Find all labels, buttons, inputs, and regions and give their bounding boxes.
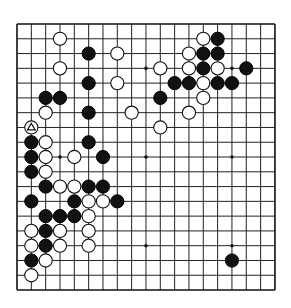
white-stone bbox=[53, 180, 66, 193]
white-stone bbox=[82, 239, 95, 252]
white-stone bbox=[154, 121, 167, 134]
black-stone bbox=[82, 77, 95, 90]
black-stone bbox=[154, 91, 167, 104]
black-stone bbox=[53, 210, 66, 223]
white-stone bbox=[53, 62, 66, 75]
star-point bbox=[58, 155, 62, 159]
white-stone bbox=[197, 77, 210, 90]
white-stone bbox=[68, 150, 81, 163]
white-stone bbox=[211, 62, 224, 75]
black-stone bbox=[82, 136, 95, 149]
black-stone bbox=[211, 47, 224, 60]
black-stone bbox=[68, 210, 81, 223]
black-stone bbox=[82, 180, 95, 193]
white-stone bbox=[39, 254, 52, 267]
white-stone bbox=[53, 239, 66, 252]
black-stone bbox=[240, 62, 253, 75]
white-stone bbox=[68, 180, 81, 193]
star-point bbox=[230, 155, 234, 159]
white-stone bbox=[111, 47, 124, 60]
white-stone bbox=[182, 106, 195, 119]
white-stone bbox=[154, 62, 167, 75]
star-point bbox=[230, 244, 234, 248]
white-stone bbox=[39, 165, 52, 178]
black-stone bbox=[197, 62, 210, 75]
white-stone bbox=[82, 195, 95, 208]
star-point bbox=[144, 244, 148, 248]
white-stone bbox=[39, 136, 52, 149]
black-stone bbox=[53, 91, 66, 104]
black-stone bbox=[211, 77, 224, 90]
star-point bbox=[144, 155, 148, 159]
white-stone bbox=[53, 32, 66, 45]
white-stone bbox=[39, 150, 52, 163]
black-stone bbox=[182, 77, 195, 90]
black-stone bbox=[25, 150, 38, 163]
white-stone bbox=[53, 224, 66, 237]
white-stone bbox=[125, 106, 138, 119]
black-stone bbox=[82, 106, 95, 119]
black-stone bbox=[39, 91, 52, 104]
black-stone bbox=[25, 165, 38, 178]
black-stone bbox=[82, 47, 95, 60]
black-stone bbox=[39, 180, 52, 193]
black-stone bbox=[25, 254, 38, 267]
black-stone bbox=[96, 150, 109, 163]
black-stone bbox=[168, 77, 181, 90]
white-stone bbox=[197, 32, 210, 45]
black-stone bbox=[39, 210, 52, 223]
white-stone bbox=[96, 195, 109, 208]
white-stone bbox=[39, 106, 52, 119]
black-stone bbox=[25, 195, 38, 208]
go-board[interactable] bbox=[0, 0, 291, 308]
white-stone bbox=[182, 62, 195, 75]
black-stone bbox=[197, 47, 210, 60]
white-stone bbox=[111, 77, 124, 90]
white-stone bbox=[25, 269, 38, 282]
black-stone bbox=[68, 195, 81, 208]
black-stone bbox=[225, 77, 238, 90]
black-stone bbox=[39, 239, 52, 252]
white-stone bbox=[82, 224, 95, 237]
white-stone bbox=[197, 91, 210, 104]
black-stone bbox=[96, 180, 109, 193]
black-stone bbox=[111, 195, 124, 208]
white-stone bbox=[25, 224, 38, 237]
star-point bbox=[230, 67, 234, 71]
black-stone bbox=[25, 136, 38, 149]
black-stone bbox=[39, 224, 52, 237]
black-stone bbox=[211, 32, 224, 45]
star-point bbox=[144, 67, 148, 71]
white-stone bbox=[182, 47, 195, 60]
white-stone bbox=[82, 210, 95, 223]
white-stone bbox=[25, 239, 38, 252]
black-stone bbox=[225, 254, 238, 267]
